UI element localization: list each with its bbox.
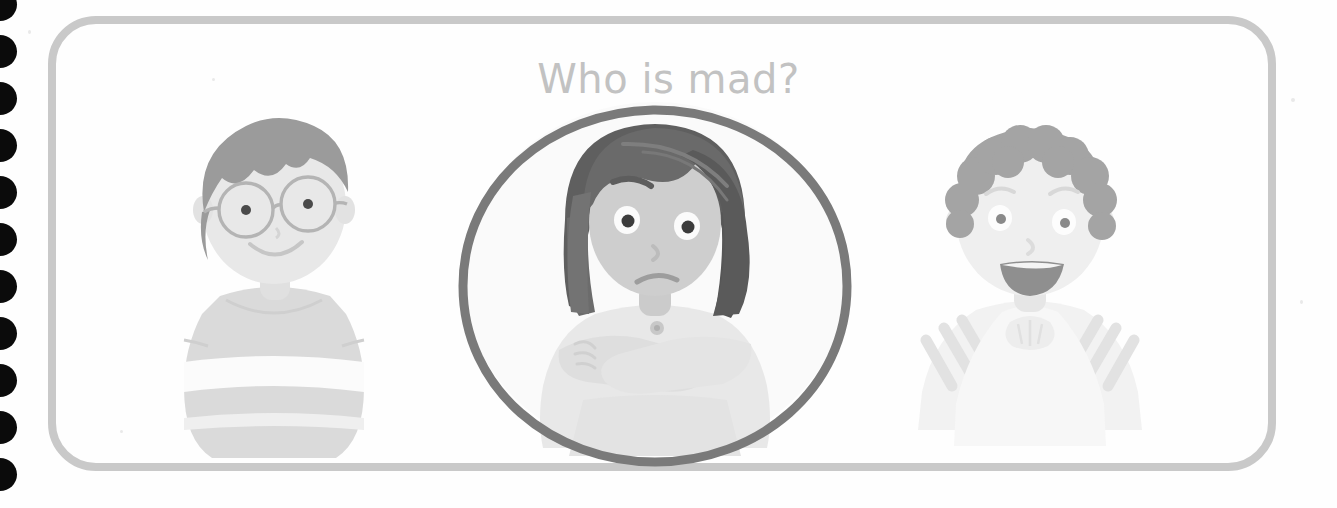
punch-hole <box>0 223 17 256</box>
scan-speck <box>28 30 31 34</box>
girl-body <box>540 305 770 456</box>
punch-hole <box>0 411 17 444</box>
eye-right <box>303 199 313 209</box>
punch-hole <box>0 0 17 21</box>
punch-hole <box>0 129 17 162</box>
eye-left <box>241 205 251 215</box>
worksheet-page: Who is mad? <box>0 0 1337 508</box>
character-girl-arms-crossed[interactable] <box>455 100 855 460</box>
scan-speck <box>1300 300 1303 304</box>
boy-curly-body <box>918 301 1142 446</box>
punch-hole <box>0 458 17 491</box>
punch-hole <box>0 270 17 303</box>
punch-hole <box>0 317 17 350</box>
page-title: Who is mad? <box>0 56 1337 102</box>
character-boy-curly-hair[interactable] <box>890 100 1170 460</box>
punch-hole <box>0 364 17 397</box>
scan-speck <box>120 430 123 433</box>
boy-glasses-body <box>184 287 364 458</box>
character-boy-glasses[interactable] <box>150 100 400 460</box>
punch-hole <box>0 176 17 209</box>
